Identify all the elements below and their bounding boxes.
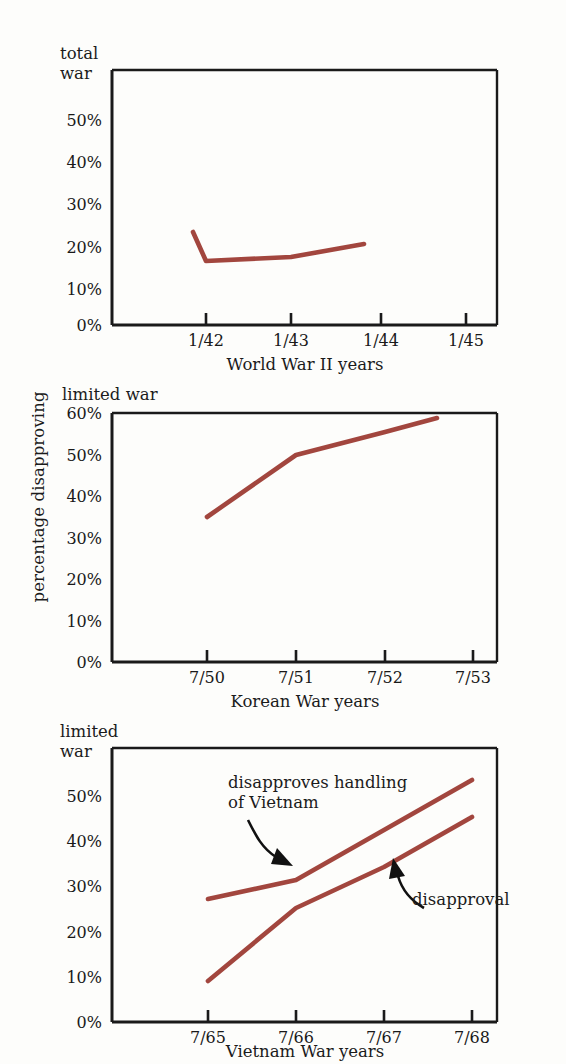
- ytick-vietnam-50: 50%: [46, 789, 102, 805]
- annotation-arrow-upper: [248, 820, 293, 866]
- ytick-korea-10: 10%: [46, 614, 102, 630]
- xtick-vietnam-7-68: 7/68: [437, 1030, 507, 1046]
- xtick-ww2-1-42: 1/42: [171, 333, 241, 349]
- ytick-vietnam-10: 10%: [46, 970, 102, 986]
- series-disapproval: [208, 817, 472, 981]
- ytick-vietnam-40: 40%: [46, 834, 102, 850]
- xtick-vietnam-7-66: 7/66: [261, 1030, 331, 1046]
- ytick-vietnam-20: 20%: [46, 925, 102, 941]
- annotation-upper-label: disapproves handling of Vietnam: [228, 773, 407, 813]
- annotation-arrow-lower: [389, 858, 424, 908]
- ytick-korea-30: 30%: [46, 531, 102, 547]
- y-axis-label: percentage disapproving: [29, 403, 48, 603]
- xaxis-title-vietnam: Vietnam War years: [185, 1043, 425, 1062]
- ytick-vietnam-30: 30%: [46, 879, 102, 895]
- annotation-lower-label: disapproval: [412, 890, 510, 910]
- xtick-korea-7-51: 7/51: [261, 670, 331, 686]
- ytick-korea-40: 40%: [46, 489, 102, 505]
- panel-world-war-ii: total war 50% 40% 30% 20% 10% 0% 1/42 1/…: [0, 0, 566, 370]
- ytick-vietnam-0: 0%: [46, 1015, 102, 1031]
- xtick-korea-7-50: 7/50: [172, 670, 242, 686]
- panel-korea-corner-label: limited war: [62, 385, 158, 405]
- xtick-ww2-1-43: 1/43: [256, 333, 326, 349]
- xtick-ww2-1-45: 1/45: [431, 333, 501, 349]
- panel-vietnam-corner-label: limited war: [60, 722, 118, 762]
- series-disapproves-handling: [208, 780, 472, 899]
- ytick-korea-60: 60%: [46, 406, 102, 422]
- plot-ww2: [0, 0, 566, 370]
- ytick-korea-20: 20%: [46, 572, 102, 588]
- ytick-korea-0: 0%: [46, 655, 102, 671]
- ytick-korea-50: 50%: [46, 448, 102, 464]
- xtick-vietnam-7-67: 7/67: [349, 1030, 419, 1046]
- xtick-vietnam-7-65: 7/65: [173, 1030, 243, 1046]
- xtick-korea-7-52: 7/52: [350, 670, 420, 686]
- xtick-korea-7-53: 7/53: [438, 670, 508, 686]
- xaxis-title-korea: Korean War years: [185, 693, 425, 712]
- figure-root: percentage disapproving total war 50% 40…: [0, 0, 566, 1064]
- xaxis-title-ww2: World War II years: [185, 356, 425, 375]
- xtick-ww2-1-44: 1/44: [346, 333, 416, 349]
